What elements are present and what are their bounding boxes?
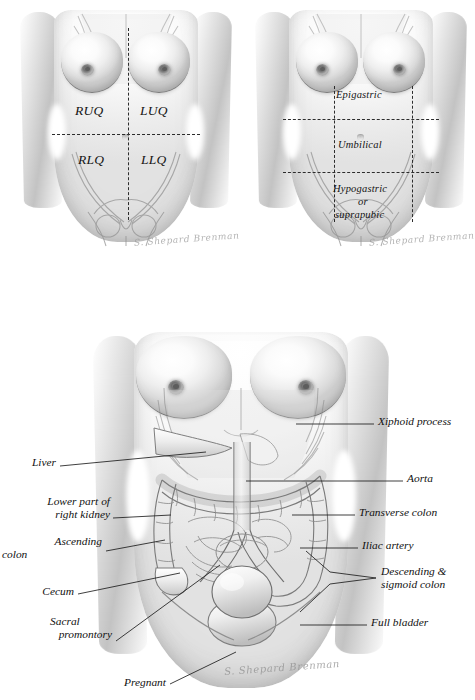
figure-abdominal-regions: Epigastric Umbilical Hypogastric or supr… (253, 8, 467, 258)
nipple-right (393, 64, 406, 76)
callout-cecum-label: Cecum (42, 585, 74, 597)
callout-descending-sigmoid-colon-line2: sigmoid colon (381, 578, 446, 591)
callout-full-bladder: Full bladder (371, 616, 428, 629)
label-umbilical: Umbilical (338, 139, 382, 150)
region-horizontal-line-lower (283, 172, 439, 173)
callout-xiphoid-process-label: Xiphoid process (378, 415, 451, 427)
label-llq: LLQ (141, 152, 166, 168)
callout-transverse-colon-label: Transverse colon (359, 506, 437, 518)
label-ruq: RUQ (75, 103, 103, 119)
label-epigastric: Epigastric (336, 89, 382, 100)
abdominal-organs (136, 426, 346, 676)
breast-right (363, 32, 425, 93)
quadrant-vertical-line (128, 28, 129, 220)
callout-ascending-colon-line2: colon (0, 548, 102, 561)
callout-descending-sigmoid-colon-line1: Descending & (381, 565, 446, 578)
nipple-right (158, 64, 171, 76)
breast-left (61, 32, 123, 93)
callout-liver: Liver (0, 456, 56, 469)
label-suprapubic: suprapubic (335, 209, 384, 220)
region-horizontal-line-upper (283, 119, 439, 120)
callout-transverse-colon: Transverse colon (359, 506, 437, 519)
callout-ascending-colon-line1: Ascending (0, 535, 102, 548)
callout-full-bladder-label: Full bladder (371, 616, 428, 628)
callout-iliac-artery-label: Iliac artery (362, 539, 414, 551)
region-vertical-line-right (334, 86, 335, 222)
quadrant-horizontal-line (52, 134, 200, 135)
callout-cecum: Cecum (0, 585, 74, 598)
pelvic-outline (293, 140, 429, 248)
callout-right-kidney-line2: right kidney (0, 508, 110, 521)
label-or: or (358, 196, 368, 207)
callout-aorta-label: Aorta (407, 472, 433, 484)
callout-sacral-promontory-line1: Sacral (0, 615, 112, 628)
callout-pregnant: Pregnant (0, 676, 166, 689)
figure-four-quadrants: RUQ LUQ RLQ LLQ S. Shepard Brenman (18, 8, 232, 258)
callout-aorta: Aorta (407, 472, 433, 485)
figure-abdominal-anatomy: S. Shepard Brenman (96, 330, 386, 698)
callout-liver-label: Liver (32, 456, 56, 468)
nipple-left (316, 64, 329, 76)
breast-right (128, 32, 190, 93)
callout-sacral-promontory: Sacral promontory (0, 615, 112, 642)
callout-right-kidney-line1: Lower part of (0, 495, 110, 508)
torso-regions: Epigastric Umbilical Hypogastric or supr… (253, 8, 467, 258)
callout-ascending-colon: Ascending colon (0, 535, 102, 562)
breast-left (296, 32, 358, 93)
callout-sacral-promontory-line2: promontory (0, 628, 112, 641)
label-luq: LUQ (140, 103, 168, 119)
callout-xiphoid-process: Xiphoid process (378, 415, 451, 428)
torso-quadrants: RUQ LUQ RLQ LLQ S. Shepard Brenman (18, 8, 232, 258)
label-rlq: RLQ (78, 152, 104, 168)
torso-anatomy: S. Shepard Brenman (96, 330, 386, 698)
callout-descending-sigmoid-colon: Descending & sigmoid colon (381, 565, 446, 592)
nipple-left (81, 64, 94, 76)
callout-pregnant-label: Pregnant (124, 676, 166, 688)
callout-right-kidney: Lower part of right kidney (0, 495, 110, 522)
region-vertical-line-left (412, 86, 413, 222)
callout-iliac-artery: Iliac artery (362, 539, 414, 552)
label-hypogastric: Hypogastric (333, 183, 387, 194)
